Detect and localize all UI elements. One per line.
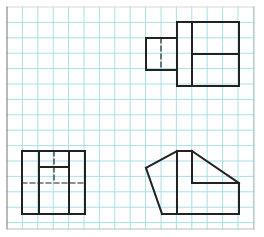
grid-drawing: [0, 0, 264, 237]
